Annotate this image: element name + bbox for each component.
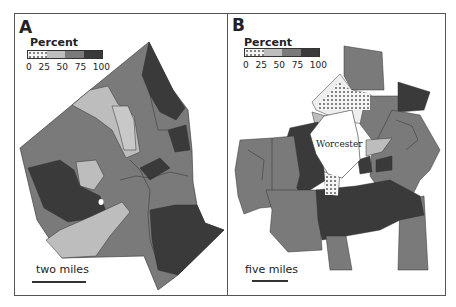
map-b: [0, 0, 456, 300]
legend-b-swatch-0-25: [245, 49, 264, 56]
scale-b-bar: [252, 280, 288, 282]
legend-b-tick: 25: [255, 61, 266, 70]
legend-b-swatch-25-50: [264, 49, 283, 56]
legend-b-swatch-50-75: [282, 49, 301, 56]
legend-b-swatch-75-100: [301, 49, 320, 56]
legend-b-ticks: 0 25 50 75 100: [243, 61, 327, 70]
legend-b-title: Percent: [244, 37, 292, 48]
legend-b-tick: 100: [310, 61, 327, 70]
legend-b-bar: [244, 48, 320, 57]
place-label-worcester: Worcester: [316, 140, 363, 149]
legend-b-tick: 75: [292, 61, 303, 70]
scale-b-label: five miles: [245, 264, 298, 275]
map-b-dotted-region-south: [325, 175, 338, 195]
legend-b-tick: 0: [243, 61, 249, 70]
legend-b-tick: 50: [274, 61, 285, 70]
